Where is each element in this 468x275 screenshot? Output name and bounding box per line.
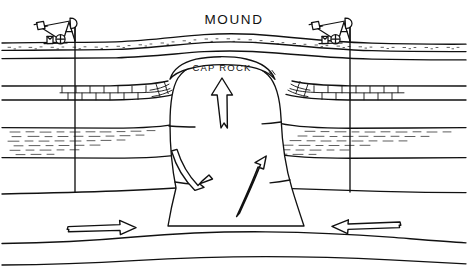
ground-line-top	[2, 34, 466, 45]
left-sand-layer-group	[2, 123, 186, 158]
sand-dash-texture-right	[278, 131, 451, 154]
left-pumpjack-horsehead	[70, 18, 77, 28]
right-pumpjack-counterweight	[312, 21, 321, 29]
sand-bottom-left	[2, 154, 186, 159]
deep-bed-line-left	[2, 188, 176, 194]
right-pumpjack-weight-tab-upper	[309, 24, 312, 25]
left-pumpjack-base-skid	[44, 43, 67, 44]
cap-rock-label: CAP ROCK	[192, 62, 251, 73]
left-pumpjack-weight-tab-lower	[45, 26, 48, 27]
soil-surface-layer	[2, 34, 466, 60]
left-pumpjack-walking-beam	[41, 21, 70, 27]
left-pumpjack-weight-tab-upper	[34, 24, 37, 25]
right-pumpjack-base-skid	[319, 43, 342, 44]
salt-dome-outline	[168, 62, 304, 226]
limestone-bottom-left	[2, 94, 174, 100]
right-pumpjack-horsehead	[345, 18, 352, 28]
geology-cross-section-diagram: MOUND	[0, 0, 468, 275]
left-pumpjack-counterweight	[37, 21, 46, 29]
sand-top-right	[280, 123, 466, 128]
left-strata-group	[2, 81, 174, 100]
right-strata-group	[286, 81, 466, 100]
sand-top-left	[2, 123, 180, 128]
diagram-canvas: MOUND	[0, 0, 468, 275]
left-pumpjack	[34, 18, 77, 44]
limestone-top-right	[292, 81, 466, 86]
right-pumpjack-walking-beam	[316, 21, 345, 27]
limestone-top-left	[2, 81, 168, 86]
right-sand-layer-group	[274, 123, 466, 158]
salt-dome	[168, 62, 304, 226]
limestone-bottom-right	[286, 94, 466, 100]
basin-line-upper	[2, 232, 466, 244]
basin-right-left-arrow	[332, 220, 401, 234]
page-title: MOUND	[205, 12, 264, 27]
deep-bed-line-right	[292, 189, 466, 193]
basin-line-lower	[2, 257, 466, 265]
right-pumpjack-weight-tab-lower	[320, 26, 323, 27]
basin-left-right-arrow	[67, 220, 136, 234]
sand-dash-texture-left	[8, 131, 155, 155]
